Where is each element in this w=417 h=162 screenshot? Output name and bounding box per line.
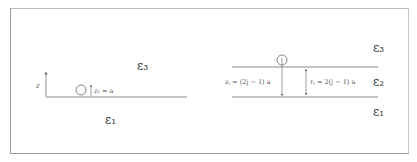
z-axis-label: z bbox=[35, 82, 40, 90]
spacing-label: ℓⱼ = 2(j − 1) a bbox=[310, 78, 355, 86]
epsilon-3-left: ε₃ bbox=[137, 59, 148, 73]
sphere-circle bbox=[76, 85, 86, 95]
epsilon-1-left: ε₁ bbox=[105, 113, 116, 127]
right-panel: zⱼ = (2j − 1) a ℓⱼ = 2(j − 1) a ε₃ ε₂ ε₁ bbox=[225, 41, 384, 119]
position-label: zⱼ = (2j − 1) a bbox=[225, 78, 271, 86]
epsilon-2-right: ε₂ bbox=[373, 75, 384, 89]
diagram-canvas: z z₁ = a ε₃ ε₁ zⱼ = (2j − 1) a ℓⱼ = 2(j … bbox=[0, 0, 417, 162]
epsilon-1-right: ε₁ bbox=[373, 105, 384, 119]
left-panel: z z₁ = a ε₃ ε₁ bbox=[35, 59, 187, 127]
epsilon-3-right: ε₃ bbox=[373, 41, 384, 55]
height-label: z₁ = a bbox=[94, 87, 114, 95]
